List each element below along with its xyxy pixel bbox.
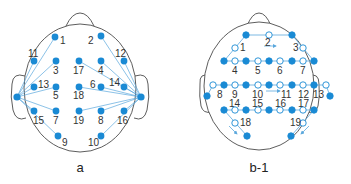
electrode-label: 19 — [73, 115, 85, 126]
electrode-label: 7 — [53, 115, 59, 126]
electrode-label: 1 — [60, 35, 66, 46]
eeg-montage-figure: 12113174121351861415719816910 a — [0, 0, 351, 184]
electrode-label: 17 — [73, 65, 85, 76]
electrode-19 — [76, 108, 83, 115]
svg-text:3: 3 — [293, 42, 299, 53]
electrode-label: 14 — [109, 77, 121, 88]
right-ear-reference-electrode — [137, 93, 144, 100]
left-ear-reference-electrode — [13, 93, 20, 100]
electrode-7 — [53, 108, 60, 115]
svg-text:1: 1 — [240, 42, 246, 53]
electrode-6 — [98, 84, 105, 91]
electrode-4 — [98, 58, 105, 65]
electrode-label: 10 — [88, 137, 100, 148]
panel-a: 12113174121351861415719816910 a — [11, 13, 149, 175]
svg-text:4: 4 — [232, 65, 238, 76]
caption-a: a — [76, 160, 84, 175]
svg-text:6: 6 — [277, 65, 283, 76]
electrode-3 — [53, 58, 60, 65]
svg-text:17: 17 — [298, 98, 310, 109]
svg-text:15: 15 — [252, 98, 264, 109]
svg-text:2: 2 — [265, 37, 271, 48]
svg-text:7: 7 — [300, 65, 306, 76]
electrode-15 — [31, 108, 38, 115]
electrode-label: 5 — [53, 90, 59, 101]
electrode-label: 9 — [62, 137, 68, 148]
electrode-8 — [98, 108, 105, 115]
electrode-label: 16 — [117, 115, 129, 126]
electrode-label: 4 — [98, 65, 104, 76]
electrode-label: 2 — [88, 35, 94, 46]
electrode-label: 3 — [53, 65, 59, 76]
electrode-label: 13 — [38, 79, 50, 90]
svg-text:8: 8 — [217, 89, 223, 100]
electrode-13 — [31, 84, 38, 91]
electrode-14 — [121, 84, 128, 91]
svg-text:18: 18 — [240, 117, 252, 128]
electrode-17 — [76, 58, 83, 65]
caption-b1: b-1 — [250, 160, 269, 175]
electrode-label: 18 — [73, 90, 85, 101]
electrode-16 — [121, 108, 128, 115]
electrode-label: 6 — [90, 79, 96, 90]
electrode-label: 12 — [115, 48, 127, 59]
electrode-9 — [55, 133, 62, 140]
electrode-label: 11 — [28, 48, 39, 59]
electrode-2 — [98, 33, 105, 40]
electrode-label: 8 — [98, 115, 104, 126]
svg-text:16: 16 — [275, 98, 287, 109]
svg-text:19: 19 — [290, 117, 302, 128]
panel-b1: 1 2 3 4 5 6 7 8 9 10 11 12 13 14 15 16 1… — [200, 13, 334, 175]
svg-text:13: 13 — [313, 89, 325, 100]
electrode-label: 15 — [33, 115, 45, 126]
svg-text:5: 5 — [255, 65, 261, 76]
electrode-1 — [52, 34, 59, 41]
svg-text:14: 14 — [229, 98, 241, 109]
